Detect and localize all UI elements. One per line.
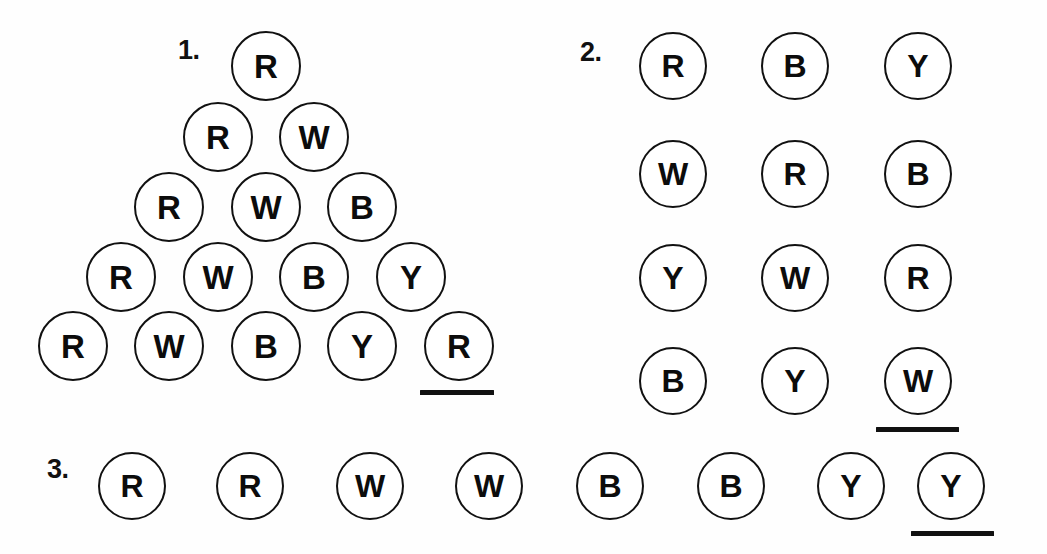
token-letter: B: [661, 365, 684, 397]
token-letter: W: [658, 158, 688, 190]
token-p1-r3-c3[interactable]: B: [327, 172, 397, 242]
token-letter: Y: [400, 260, 422, 293]
token-p3-c8[interactable]: Y: [917, 452, 985, 520]
token-letter: R: [906, 262, 929, 294]
token-p3-c2[interactable]: R: [216, 452, 284, 520]
token-p2-r3-c1[interactable]: Y: [639, 244, 707, 312]
token-p1-r3-c2[interactable]: W: [231, 172, 301, 242]
token-letter: W: [298, 120, 329, 153]
token-p1-r3-c1[interactable]: R: [134, 172, 204, 242]
token-p1-r4-c1[interactable]: R: [86, 242, 156, 312]
token-letter: Y: [840, 470, 861, 502]
token-letter: B: [302, 260, 326, 293]
token-letter: R: [120, 470, 143, 502]
token-p2-r1-c3[interactable]: Y: [884, 32, 952, 100]
token-letter: R: [61, 329, 85, 362]
token-letter: W: [250, 190, 281, 223]
problem-3-number: 3.: [47, 456, 69, 483]
token-p1-r4-c3[interactable]: B: [279, 242, 349, 312]
token-letter: W: [355, 470, 385, 502]
token-p2-r1-c1[interactable]: R: [639, 32, 707, 100]
token-letter: B: [719, 470, 742, 502]
token-letter: B: [254, 329, 278, 362]
token-letter: Y: [784, 365, 805, 397]
token-letter: W: [474, 470, 504, 502]
token-p1-r5-c1[interactable]: R: [38, 311, 108, 381]
token-letter: W: [780, 262, 810, 294]
token-letter: B: [906, 158, 929, 190]
token-p2-r3-c2[interactable]: W: [761, 244, 829, 312]
token-p1-r4-c4[interactable]: Y: [376, 242, 446, 312]
problem-3-answer-blank[interactable]: [911, 531, 994, 536]
token-letter: B: [598, 470, 621, 502]
problem-2-answer-blank[interactable]: [876, 427, 959, 432]
token-letter: Y: [907, 50, 928, 82]
token-letter: W: [153, 329, 184, 362]
token-p2-r1-c2[interactable]: B: [761, 32, 829, 100]
problem-2-number: 2.: [580, 39, 602, 66]
token-p3-c6[interactable]: B: [697, 452, 765, 520]
token-p1-r5-c3[interactable]: B: [231, 311, 301, 381]
token-letter: R: [447, 329, 471, 362]
token-letter: R: [206, 120, 230, 153]
token-p3-c7[interactable]: Y: [817, 452, 885, 520]
token-p1-r2-c1[interactable]: R: [183, 102, 253, 172]
token-letter: R: [254, 49, 278, 82]
token-p3-c4[interactable]: W: [455, 452, 523, 520]
token-letter: R: [109, 260, 133, 293]
token-letter: R: [783, 158, 806, 190]
problem-1-answer-blank[interactable]: [420, 390, 494, 395]
worksheet-page: 1. R R W R W B R W B: [0, 0, 1047, 554]
token-p2-r4-c2[interactable]: Y: [761, 347, 829, 415]
token-letter: R: [157, 190, 181, 223]
token-letter: Y: [940, 470, 961, 502]
token-p2-r4-c3[interactable]: W: [884, 347, 952, 415]
token-p1-r5-c5[interactable]: R: [424, 311, 494, 381]
token-letter: R: [238, 470, 261, 502]
token-letter: B: [783, 50, 806, 82]
token-p1-r4-c2[interactable]: W: [183, 242, 253, 312]
problem-1-number: 1.: [178, 37, 200, 64]
token-p2-r3-c3[interactable]: R: [884, 244, 952, 312]
token-p3-c3[interactable]: W: [336, 452, 404, 520]
token-p2-r4-c1[interactable]: B: [639, 347, 707, 415]
token-p3-c5[interactable]: B: [576, 452, 644, 520]
token-letter: Y: [662, 262, 683, 294]
token-letter: W: [202, 260, 233, 293]
token-letter: B: [350, 190, 374, 223]
token-p1-r5-c2[interactable]: W: [134, 311, 204, 381]
token-letter: W: [903, 365, 933, 397]
token-p2-r2-c3[interactable]: B: [884, 140, 952, 208]
token-p1-r1-c1[interactable]: R: [231, 31, 301, 101]
token-p2-r2-c1[interactable]: W: [639, 140, 707, 208]
token-letter: R: [661, 50, 684, 82]
token-p1-r5-c4[interactable]: Y: [327, 311, 397, 381]
token-p2-r2-c2[interactable]: R: [761, 140, 829, 208]
token-p3-c1[interactable]: R: [98, 452, 166, 520]
token-p1-r2-c2[interactable]: W: [279, 102, 349, 172]
token-letter: Y: [351, 329, 373, 362]
